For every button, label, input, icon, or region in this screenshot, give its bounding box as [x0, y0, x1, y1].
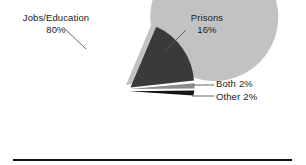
pie-label-prisons-name: Prisons — [191, 12, 223, 23]
pie-slice-other — [129, 91, 194, 96]
pie-label-both-value: 2% — [239, 78, 253, 89]
pie-label-other-name: Other — [216, 91, 240, 102]
pie-label-jobs-education-value: 80% — [14, 24, 98, 36]
pie-label-both-name: Both — [216, 78, 236, 89]
pie-label-jobs-education: Jobs/Education 80% — [14, 12, 98, 35]
pie-label-prisons-value: 16% — [178, 24, 236, 36]
bottom-divider-rule — [13, 159, 292, 161]
pie-chart-figure: Jobs/Education 80% Prisons 16% Both2% Ot… — [0, 0, 306, 165]
pie-label-both: Both2% — [216, 78, 253, 90]
pie-label-jobs-education-name: Jobs/Education — [23, 12, 89, 23]
pie-label-other: Other2% — [216, 91, 257, 103]
pie-label-prisons: Prisons 16% — [178, 12, 236, 35]
pie-label-other-value: 2% — [243, 91, 257, 102]
